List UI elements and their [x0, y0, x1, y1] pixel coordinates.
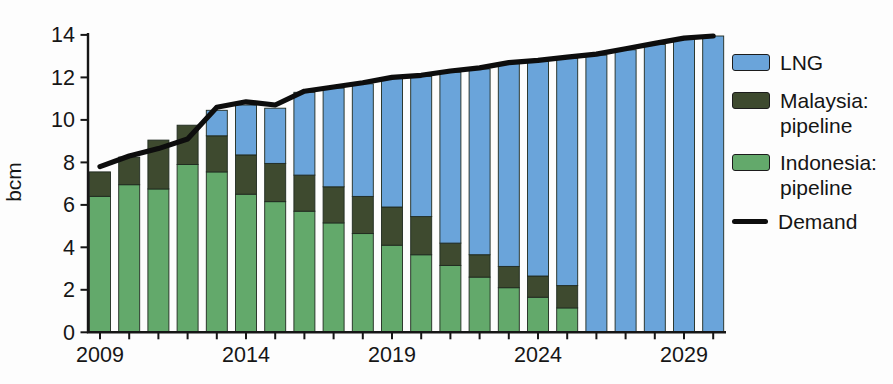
bar-segment-malaysia-2013 [206, 136, 227, 172]
legend-label-indonesia: Indonesia: pipeline [780, 150, 877, 200]
legend-label-malaysia: Malaysia: pipeline [780, 88, 869, 138]
bar-segment-indonesia-2023 [498, 288, 519, 333]
bar-segment-lng-2028 [644, 45, 665, 333]
bar-segment-lng-2029 [674, 39, 695, 332]
y-tick-label: 6 [63, 193, 75, 217]
demand-line-swatch-icon [732, 219, 768, 224]
bar-segment-lng-2017 [323, 88, 344, 187]
bar-segment-indonesia-2016 [294, 211, 315, 332]
bar-segment-malaysia-2020 [411, 217, 432, 255]
x-tick-label: 2009 [76, 343, 124, 367]
x-tick-label: 2024 [514, 343, 562, 367]
bar-segment-indonesia-2021 [440, 265, 461, 332]
bar-segment-indonesia-2014 [236, 194, 257, 332]
bar-segment-lng-2016 [294, 92, 315, 175]
bar-segment-indonesia-2009 [90, 196, 111, 332]
bar-segment-malaysia-2023 [498, 267, 519, 288]
y-tick-label: 2 [63, 278, 75, 302]
bar-segment-lng-2024 [528, 62, 549, 277]
bar-segment-indonesia-2012 [177, 165, 198, 333]
bar-segment-lng-2014 [236, 105, 257, 155]
bar-segment-indonesia-2018 [352, 234, 373, 333]
bar-segment-malaysia-2024 [528, 276, 549, 297]
x-tick-label: 2029 [660, 343, 708, 367]
bar-segment-lng-2030 [703, 36, 724, 332]
bar-segment-lng-2019 [382, 79, 403, 208]
bar-segment-indonesia-2017 [323, 223, 344, 332]
bar-segment-indonesia-2025 [557, 308, 578, 332]
bar-segment-lng-2021 [440, 72, 461, 243]
bar-segment-malaysia-2009 [90, 172, 111, 196]
bar-segment-indonesia-2022 [469, 277, 490, 332]
legend-item-malaysia: Malaysia: pipeline [732, 88, 869, 138]
bar-segment-indonesia-2010 [119, 185, 140, 333]
y-tick-label: 0 [63, 321, 75, 345]
y-tick-label: 8 [63, 151, 75, 175]
lng-swatch-icon [732, 54, 770, 71]
legend-item-lng: LNG [732, 50, 823, 75]
bar-segment-indonesia-2020 [411, 255, 432, 332]
bar-segment-lng-2023 [498, 64, 519, 267]
bar-segment-malaysia-2014 [236, 155, 257, 194]
bar-segment-indonesia-2015 [265, 202, 286, 333]
bar-segment-indonesia-2019 [382, 245, 403, 332]
bar-segment-malaysia-2015 [265, 163, 286, 201]
bar-segment-malaysia-2016 [294, 175, 315, 211]
legend-item-demand: Demand [732, 209, 857, 234]
bar-segment-malaysia-2025 [557, 286, 578, 308]
bar-segment-malaysia-2022 [469, 255, 490, 277]
bar-segment-indonesia-2011 [148, 189, 169, 332]
y-tick-label: 4 [63, 236, 75, 260]
bar-segment-lng-2020 [411, 76, 432, 216]
bar-segment-lng-2027 [615, 50, 636, 333]
malaysia-swatch-icon [732, 92, 770, 109]
indonesia-swatch-icon [732, 154, 770, 171]
bar-segment-lng-2022 [469, 69, 490, 255]
y-tick-label: 10 [51, 108, 75, 132]
chart: 0246810121420092014201920242029 bcm LNG … [0, 0, 893, 384]
bar-segment-lng-2018 [352, 84, 373, 197]
bar-segment-lng-2015 [265, 108, 286, 163]
bar-segment-malaysia-2021 [440, 243, 461, 265]
y-tick-label: 14 [51, 23, 75, 47]
bar-segment-lng-2025 [557, 58, 578, 285]
bar-segment-lng-2026 [586, 55, 607, 332]
bar-segment-malaysia-2018 [352, 196, 373, 233]
bar-segment-indonesia-2024 [528, 297, 549, 332]
legend-item-indonesia: Indonesia: pipeline [732, 150, 877, 200]
x-tick-label: 2019 [368, 343, 416, 367]
legend-label-demand: Demand [778, 209, 857, 234]
bar-segment-malaysia-2019 [382, 207, 403, 245]
bar-segment-indonesia-2013 [206, 172, 227, 332]
y-axis-label: bcm [2, 142, 26, 222]
legend-label-lng: LNG [780, 50, 823, 75]
y-tick-label: 12 [51, 66, 75, 90]
x-tick-label: 2014 [222, 343, 270, 367]
bar-segment-malaysia-2017 [323, 187, 344, 223]
